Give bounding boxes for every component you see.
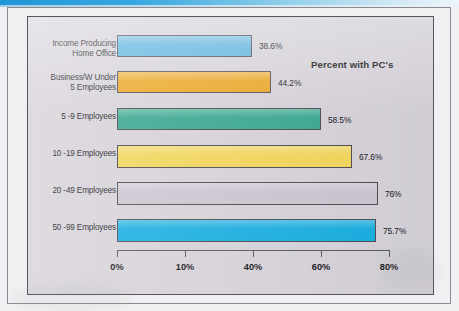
bar-gloss (118, 220, 375, 229)
x-axis-tick-4 (389, 250, 390, 257)
category-label-1: Business/W Under 5 Employees (34, 73, 116, 93)
x-axis-tick-label-2: 40% (233, 262, 273, 272)
x-axis-tick-1 (185, 250, 186, 257)
category-label-2: 5 -9 Employees (34, 112, 116, 122)
bar-gloss (118, 36, 251, 45)
bar-20-49-employees (117, 182, 378, 205)
bar-10-19-employees (117, 145, 352, 168)
x-axis-tick-2 (253, 250, 254, 257)
value-label-5: 75.7% (383, 226, 406, 236)
x-axis-tick-0 (117, 250, 118, 257)
chart-panel: Income Producing Home Office Business/W … (27, 16, 434, 295)
value-label-2: 58.5% (328, 115, 351, 125)
bar-gloss (118, 109, 320, 118)
chart-title: Percent with PC's (311, 59, 393, 70)
x-axis-tick-3 (321, 250, 322, 257)
plot-area: Income Producing Home Office Business/W … (28, 17, 433, 294)
bar-5-9-employees (117, 108, 321, 130)
category-label-3: 10 -19 Employees (34, 149, 116, 159)
x-axis-tick-label-3: 60% (301, 262, 341, 272)
bar-gloss (118, 72, 270, 81)
category-label-4: 20 -49 Employees (34, 186, 116, 196)
x-axis-tick-label-0: 0% (97, 262, 137, 272)
value-label-0: 38.6% (259, 41, 282, 51)
bar-income-producing-home-office (117, 35, 252, 57)
bar-gloss (118, 146, 351, 155)
value-label-4: 76% (385, 189, 401, 199)
category-label-0: Income Producing Home Office (34, 39, 116, 59)
bar-business-w-under-5-employees (117, 71, 271, 93)
scanned-page-background: Income Producing Home Office Business/W … (0, 0, 459, 311)
category-label-5: 50 -99 Employees (34, 223, 116, 233)
bar-gloss (118, 183, 377, 192)
bar-50-99-employees (117, 219, 376, 242)
x-axis-tick-label-1: 10% (165, 262, 205, 272)
value-label-3: 67.6% (359, 152, 382, 162)
value-label-1: 44.2% (278, 78, 301, 88)
x-axis-tick-label-4: 80% (369, 262, 409, 272)
